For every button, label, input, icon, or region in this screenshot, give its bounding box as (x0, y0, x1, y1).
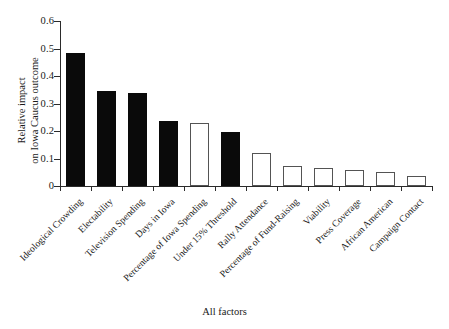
x-tick-mark (339, 186, 340, 191)
x-axis-title: All factors (0, 306, 449, 317)
y-axis-title-line-2: on Iowa Caucus outcome (28, 21, 41, 201)
y-axis-title: Relative impact on Iowa Caucus outcome (16, 21, 41, 201)
x-tick-mark (153, 186, 154, 191)
x-tick-mark (215, 186, 216, 191)
bar (221, 132, 240, 186)
bar (128, 93, 147, 186)
y-tick-mark (54, 104, 60, 105)
bar (190, 123, 209, 186)
bar (376, 172, 395, 186)
bar (314, 168, 333, 186)
bar (159, 121, 178, 186)
x-tick-mark (277, 186, 278, 191)
x-tick-mark (91, 186, 92, 191)
x-tick-mark (246, 186, 247, 191)
y-axis-line (60, 21, 61, 186)
y-tick-mark (54, 159, 60, 160)
bar (97, 91, 116, 186)
x-tick-mark (308, 186, 309, 191)
bar-chart-figure: 0.60.50.40.30.20.10 Relative impact on I… (0, 0, 449, 329)
bar (283, 166, 302, 186)
bar (252, 153, 271, 186)
bar (407, 176, 426, 186)
x-tick-mark (122, 186, 123, 191)
y-tick-mark (54, 21, 60, 22)
bar (345, 170, 364, 187)
y-tick-mark (54, 76, 60, 77)
y-tick-mark (54, 131, 60, 132)
x-tick-mark (432, 186, 433, 191)
y-axis-title-line-1: Relative impact (16, 21, 29, 201)
x-tick-mark (184, 186, 185, 191)
x-tick-mark (401, 186, 402, 191)
x-tick-mark (60, 186, 61, 191)
y-tick-mark (54, 49, 60, 50)
x-tick-mark (370, 186, 371, 191)
x-category-label: Ideological Crowding (18, 196, 84, 262)
bar (66, 53, 85, 186)
